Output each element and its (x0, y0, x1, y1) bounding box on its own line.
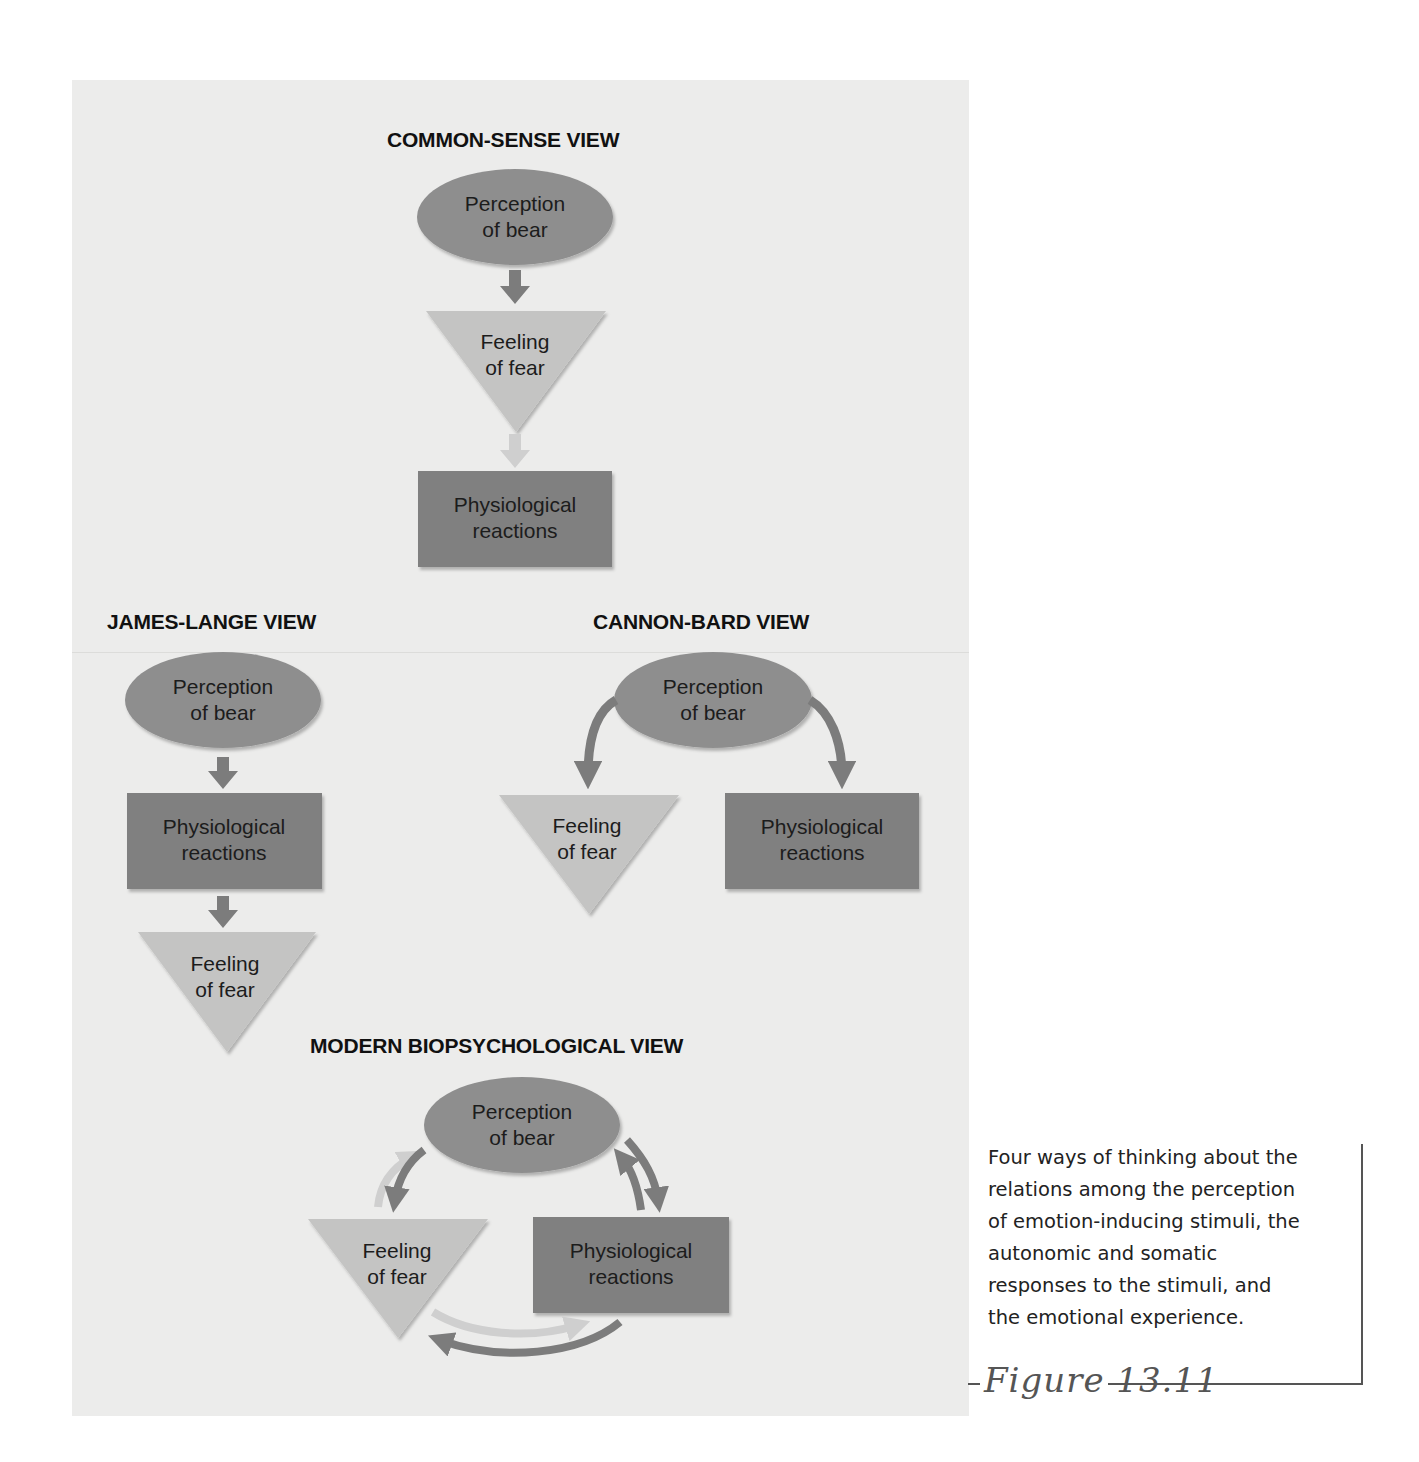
james-lange-title: JAMES-LANGE VIEW (107, 610, 316, 634)
caption-line: relations among the perception (988, 1174, 1348, 1206)
label-line: of fear (415, 355, 615, 381)
label-line: of fear (487, 839, 687, 865)
label-line: Feeling (297, 1238, 497, 1264)
label-line: reactions (415, 518, 615, 544)
caption-line: autonomic and somatic (988, 1238, 1348, 1270)
label-line: reactions (531, 1264, 731, 1290)
figure-caption: Four ways of thinking about the relation… (988, 1142, 1348, 1334)
label-line: of fear (125, 977, 325, 1003)
label-line: of bear (123, 700, 323, 726)
label-line: Perception (613, 674, 813, 700)
label-line: reactions (722, 840, 922, 866)
perception-label: Perception of bear (123, 674, 323, 726)
label-line: Physiological (722, 814, 922, 840)
caption-line: responses to the stimuli, and (988, 1270, 1348, 1302)
label-line: Perception (415, 191, 615, 217)
label-line: Physiological (531, 1238, 731, 1264)
perception-label: Perception of bear (613, 674, 813, 726)
perception-label: Perception of bear (415, 191, 615, 243)
label-line: Physiological (124, 814, 324, 840)
physiological-label: Physiological reactions (722, 814, 922, 866)
label-line: of bear (415, 217, 615, 243)
curved-arrow-icon (810, 700, 842, 775)
arrow-down-icon (500, 434, 530, 468)
curved-arrow-icon (622, 1158, 641, 1210)
label-line: Feeling (415, 329, 615, 355)
caption-line: the emotional experience. (988, 1302, 1348, 1334)
physiological-label: Physiological reactions (531, 1238, 731, 1290)
feeling-label: Feeling of fear (415, 329, 615, 381)
caption-line: of emotion-inducing stimuli, the (988, 1206, 1348, 1238)
feeling-label: Feeling of fear (487, 813, 687, 865)
label-line: Feeling (487, 813, 687, 839)
physiological-label: Physiological reactions (124, 814, 324, 866)
label-line: of bear (422, 1125, 622, 1151)
label-line: Perception (422, 1099, 622, 1125)
feeling-label: Feeling of fear (297, 1238, 497, 1290)
modern-title: MODERN BIOPSYCHOLOGICAL VIEW (310, 1034, 683, 1058)
caption-rule (1361, 1144, 1363, 1384)
caption-line: Four ways of thinking about the (988, 1142, 1348, 1174)
caption-rule (968, 1383, 980, 1385)
label-line: Physiological (415, 492, 615, 518)
arrow-down-icon (208, 896, 238, 928)
label-line: Perception (123, 674, 323, 700)
cannon-bard-title: CANNON-BARD VIEW (593, 610, 809, 634)
figure-number: Figure 13.11 (984, 1360, 1219, 1400)
arrow-down-icon (500, 270, 530, 304)
label-line: of bear (613, 700, 813, 726)
curved-arrow-icon (433, 1312, 578, 1334)
feeling-label: Feeling of fear (125, 951, 325, 1003)
common-sense-title: COMMON-SENSE VIEW (387, 128, 619, 152)
perception-label: Perception of bear (422, 1099, 622, 1151)
physiological-label: Physiological reactions (415, 492, 615, 544)
arrow-down-icon (208, 757, 238, 789)
label-line: Feeling (125, 951, 325, 977)
label-line: of fear (297, 1264, 497, 1290)
curved-arrow-icon (588, 700, 616, 775)
label-line: reactions (124, 840, 324, 866)
